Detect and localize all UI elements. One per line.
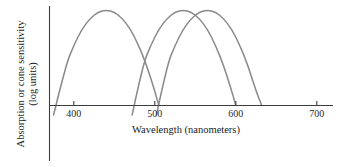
curve-s-cone xyxy=(54,10,159,115)
x-tick-label-700: 700 xyxy=(309,108,324,119)
cone-sensitivity-figure: 400500600700 Wavelength (nanometers) Abs… xyxy=(0,0,340,167)
curve-series-group xyxy=(54,10,262,115)
y-axis-title-line2: (log units) xyxy=(27,20,39,147)
x-tick-label-400: 400 xyxy=(66,108,81,119)
x-tick-label-500: 500 xyxy=(147,108,162,119)
curve-l-cone xyxy=(156,10,261,115)
x-tick-group xyxy=(74,101,317,106)
y-axis-title-line1: Absorption or cone sensitivity xyxy=(15,20,27,147)
x-tick-label-600: 600 xyxy=(228,108,243,119)
axes-group xyxy=(50,6,334,161)
x-axis-title: Wavelength (nanometers) xyxy=(132,124,240,136)
x-tick-label-group: 400500600700 xyxy=(66,108,324,119)
curve-m-cone xyxy=(132,10,236,115)
chart-plot-area: 400500600700 Wavelength (nanometers) xyxy=(0,0,340,167)
y-axis-title: Absorption or cone sensitivity (log unit… xyxy=(6,0,48,167)
